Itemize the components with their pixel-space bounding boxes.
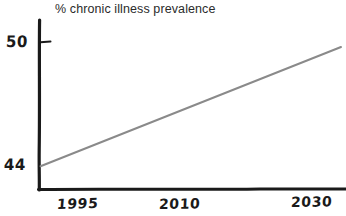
chart-container: % chronic illness prevalence 50 44 1995 … bbox=[0, 0, 346, 216]
data-series-line bbox=[41, 47, 342, 166]
x-axis-line bbox=[38, 189, 346, 190]
x-axis-tick-label-2030: 2030 bbox=[291, 193, 333, 210]
x-axis-tick-label-1995: 1995 bbox=[56, 195, 99, 212]
y-tick-mark-50 bbox=[41, 42, 51, 43]
plot-area bbox=[0, 0, 346, 216]
y-axis-tick-label-50: 50 bbox=[6, 32, 29, 51]
x-axis-tick-label-2010: 2010 bbox=[159, 195, 201, 212]
y-axis-tick-label-44: 44 bbox=[4, 155, 27, 174]
